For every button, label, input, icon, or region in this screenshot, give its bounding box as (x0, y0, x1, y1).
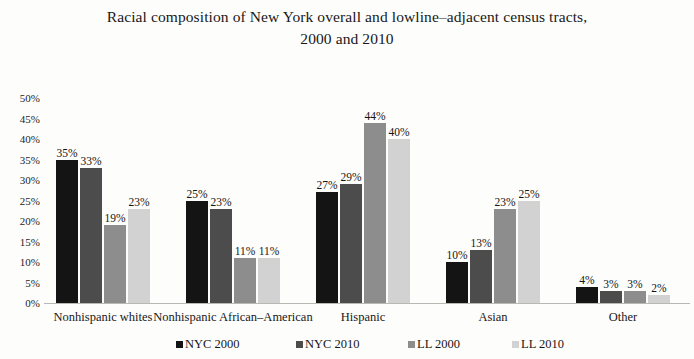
y-axis-tick-label: 40% (0, 134, 40, 145)
legend-item[interactable]: NYC 2010 (296, 337, 360, 351)
bar-group: 35%33%19%23% (56, 98, 150, 303)
legend-label: NYC 2000 (185, 337, 240, 351)
bar-value-label: 2% (651, 282, 666, 294)
bar-value-label: 25% (186, 188, 207, 200)
y-axis: 50%45%40%35%30%25%20%15%10%5%0% (0, 88, 40, 318)
bar-group: 25%23%11%11% (186, 98, 280, 303)
bar[interactable] (56, 160, 78, 304)
bar-value-label: 23% (210, 196, 231, 208)
y-axis-tick-label: 50% (0, 93, 40, 104)
legend-label: LL 2000 (417, 337, 460, 351)
bar[interactable] (340, 184, 362, 303)
legend-item[interactable]: LL 2010 (512, 337, 564, 351)
x-axis-category-label: Other (513, 310, 694, 324)
bar-value-label: 13% (470, 237, 491, 249)
legend-label: NYC 2010 (305, 337, 360, 351)
bar-value-label: 40% (388, 126, 409, 138)
bar-value-label: 23% (128, 196, 149, 208)
bar-value-label: 27% (316, 179, 337, 191)
chart-legend: NYC 2000NYC 2010LL 2000LL 2010 (0, 337, 694, 357)
x-axis-baseline (44, 303, 690, 304)
bar-group: 10%13%23%25% (446, 98, 540, 303)
y-axis-tick-label: 45% (0, 114, 40, 125)
bar-value-label: 11% (259, 245, 280, 257)
y-axis-tick-label: 0% (0, 298, 40, 309)
y-axis-tick-label: 25% (0, 196, 40, 207)
chart-title-line-2: 2000 and 2010 (60, 28, 634, 50)
bar[interactable] (316, 192, 338, 303)
bar[interactable] (80, 168, 102, 303)
bar[interactable] (210, 209, 232, 303)
bar-value-label: 11% (235, 245, 256, 257)
bar[interactable] (648, 295, 670, 303)
bar[interactable] (600, 291, 622, 303)
legend-item[interactable]: NYC 2000 (176, 337, 240, 351)
bar-value-label: 25% (518, 188, 539, 200)
bar-chart: Racial composition of New York overall a… (0, 0, 694, 359)
bar-value-label: 44% (364, 110, 385, 122)
legend-item[interactable]: LL 2000 (408, 337, 460, 351)
bar[interactable] (104, 225, 126, 303)
bar-value-label: 3% (603, 278, 618, 290)
bar-value-label: 35% (56, 147, 77, 159)
y-axis-tick-label: 30% (0, 175, 40, 186)
legend-swatch-icon (176, 341, 183, 348)
y-axis-tick-label: 20% (0, 216, 40, 227)
bar-group: 27%29%44%40% (316, 98, 410, 303)
bar[interactable] (624, 291, 646, 303)
bar-value-label: 3% (627, 278, 642, 290)
bar-value-label: 29% (340, 171, 361, 183)
bar-value-label: 4% (579, 274, 594, 286)
bar-value-label: 10% (446, 249, 467, 261)
bar[interactable] (518, 201, 540, 304)
legend-swatch-icon (512, 341, 519, 348)
y-axis-tick-label: 15% (0, 237, 40, 248)
bar[interactable] (128, 209, 150, 303)
legend-label: LL 2010 (521, 337, 564, 351)
y-axis-tick-label: 5% (0, 278, 40, 289)
bar[interactable] (234, 258, 256, 303)
bar[interactable] (388, 139, 410, 303)
bar[interactable] (494, 209, 516, 303)
chart-title-line-1: Racial composition of New York overall a… (107, 8, 587, 25)
bar[interactable] (576, 287, 598, 303)
legend-swatch-icon (296, 341, 303, 348)
chart-title: Racial composition of New York overall a… (60, 6, 634, 50)
bar-value-label: 33% (80, 155, 101, 167)
bar[interactable] (186, 201, 208, 304)
bar-value-label: 19% (104, 212, 125, 224)
bar[interactable] (364, 123, 386, 303)
bar-group: 4%3%3%2% (576, 98, 670, 303)
y-axis-tick-label: 35% (0, 155, 40, 166)
legend-swatch-icon (408, 341, 415, 348)
bar[interactable] (446, 262, 468, 303)
plot-area: 35%33%19%23%25%23%11%11%27%29%44%40%10%1… (44, 98, 690, 303)
bar[interactable] (258, 258, 280, 303)
bar[interactable] (470, 250, 492, 303)
y-axis-tick-label: 10% (0, 257, 40, 268)
bar-value-label: 23% (494, 196, 515, 208)
